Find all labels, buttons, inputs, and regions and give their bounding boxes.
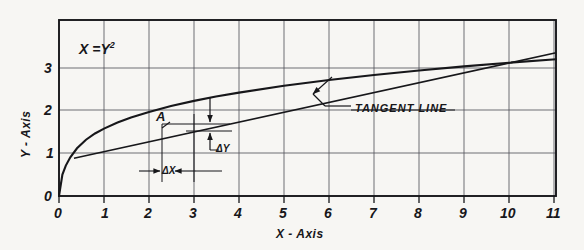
x-tick-4: 4	[234, 206, 242, 220]
x-tick-7: 7	[369, 206, 377, 220]
tangent-line	[74, 53, 556, 159]
graph-figure	[0, 0, 584, 250]
x-tick-10: 10	[500, 206, 516, 220]
x-tick-3: 3	[189, 206, 197, 220]
x-tick-2: 2	[144, 206, 152, 220]
point-a-label: A	[156, 110, 165, 123]
x-tick-6: 6	[324, 206, 332, 220]
curve-x-equals-y-squared	[59, 59, 556, 196]
y-tick-3: 3	[44, 61, 52, 75]
y-tick-1: 1	[46, 146, 54, 160]
x-axis-ticks	[59, 196, 554, 203]
y-tick-0: 0	[44, 189, 52, 203]
x-tick-11: 11	[546, 206, 561, 220]
delta-y-label: ΔY	[216, 144, 229, 154]
y-axis-title: Y - Axis	[20, 111, 32, 158]
x-tick-0: 0	[54, 206, 62, 220]
x-tick-5: 5	[279, 206, 287, 220]
x-axis-title: X - Axis	[276, 228, 324, 240]
x-tick-1: 1	[101, 206, 109, 220]
equation-label: X =Y2	[79, 41, 115, 56]
tangent-line-label: TANGENT LINE	[355, 103, 447, 114]
x-tick-8: 8	[414, 206, 422, 220]
delta-x-label: ΔX	[162, 166, 175, 176]
y-tick-2: 2	[44, 103, 52, 117]
x-tick-9: 9	[459, 206, 467, 220]
